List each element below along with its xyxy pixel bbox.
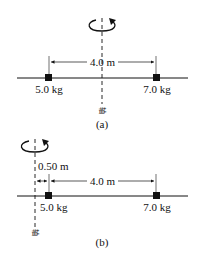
diagram-b: 0.50 m 4.0 m 5.0 kg 7.0 kg 轴 (b) [17, 139, 188, 249]
axis-label: 轴 [98, 107, 107, 114]
mass-left [45, 74, 52, 81]
mass-right-label: 7.0 kg [143, 201, 171, 213]
mass-right-label: 7.0 kg [143, 83, 171, 95]
mass-right [153, 74, 160, 81]
distance-label: 4.0 m [90, 175, 116, 187]
offset-label: 0.50 m [38, 160, 69, 172]
mass-left [45, 192, 52, 199]
mass-left-label: 5.0 kg [35, 83, 63, 95]
distance-dimension: 4.0 m [49, 174, 156, 192]
distance-dimension: 4.0 m [49, 56, 156, 74]
mass-left-label: 5.0 kg [40, 201, 68, 213]
figure: 4.0 m 5.0 kg 7.0 kg 轴 (a) 0.50 m 4.0 m [0, 0, 204, 259]
caption-a: (a) [96, 118, 109, 131]
mass-right [153, 192, 160, 199]
caption-b: (b) [96, 236, 109, 249]
rotation-arrow-icon [89, 18, 116, 31]
diagram-a: 4.0 m 5.0 kg 7.0 kg 轴 (a) [17, 18, 188, 131]
axis-label: 轴 [31, 229, 40, 236]
distance-label: 4.0 m [90, 56, 116, 68]
